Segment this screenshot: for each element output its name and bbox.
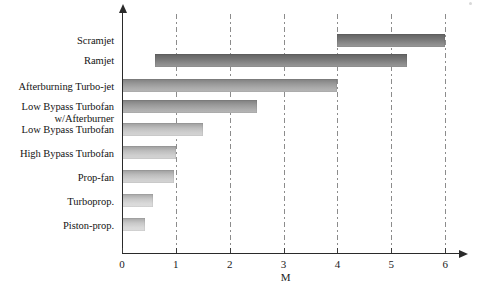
gridline-x-6 — [445, 14, 446, 254]
gridline-x-3 — [284, 14, 285, 254]
x-tick-label-1: 1 — [164, 258, 188, 270]
x-axis-line — [122, 253, 460, 254]
x-tick-label-6: 6 — [433, 258, 457, 270]
bar-low-bypass-turbofan-w-afterburner — [122, 100, 257, 113]
x-tick-mark-3 — [284, 248, 285, 253]
bar-ramjet — [155, 54, 407, 67]
bar-piston-prop — [122, 218, 145, 231]
category-label-prop-fan: Prop-fan — [0, 172, 114, 184]
top-right-speck — [469, 2, 472, 5]
gridline-x-5 — [391, 14, 392, 254]
x-tick-mark-2 — [230, 248, 231, 253]
category-label-low-bypass-turbofan-afterburner: Low Bypass Turbofan w/Afterburner — [0, 101, 114, 124]
category-label-line1: Low Bypass Turbofan — [22, 101, 114, 112]
bar-scramjet — [337, 34, 445, 47]
x-axis-arrow — [459, 250, 468, 258]
bar-chart: Scramjet Ramjet Afterburning Turbo-jet L… — [0, 0, 480, 290]
x-tick-label-2: 2 — [218, 258, 242, 270]
bar-low-bypass-turbofan — [122, 123, 203, 136]
gridline-x-2 — [230, 14, 231, 254]
x-tick-label-5: 5 — [379, 258, 403, 270]
x-axis-title: M — [274, 271, 298, 283]
x-tick-label-3: 3 — [272, 258, 296, 270]
category-label-low-bypass-turbofan: Low Bypass Turbofan — [0, 124, 114, 136]
category-label-piston-prop: Piston-prop. — [0, 220, 114, 232]
bar-high-bypass-turbofan — [122, 146, 176, 159]
x-tick-mark-6 — [445, 248, 446, 253]
category-label-ramjet: Ramjet — [0, 55, 114, 67]
category-label-high-bypass-turbofan: High Bypass Turbofan — [0, 148, 114, 160]
bar-prop-fan — [122, 170, 174, 183]
plot-area — [122, 14, 464, 254]
category-label-line2: w/Afterburner — [0, 113, 114, 125]
category-label-scramjet: Scramjet — [0, 35, 114, 47]
x-tick-label-0: 0 — [110, 258, 134, 270]
x-tick-label-4: 4 — [325, 258, 349, 270]
x-tick-mark-0 — [122, 248, 123, 253]
y-axis-line — [122, 10, 123, 254]
x-tick-mark-5 — [391, 248, 392, 253]
bar-afterburning-turbo-jet — [122, 79, 337, 92]
y-axis-arrow — [119, 4, 127, 13]
bar-turboprop — [122, 194, 153, 207]
category-label-column: Scramjet Ramjet Afterburning Turbo-jet L… — [0, 0, 118, 290]
category-label-turboprop: Turboprop. — [0, 196, 114, 208]
x-tick-mark-4 — [337, 248, 338, 253]
category-label-afterburning-turbojet: Afterburning Turbo-jet — [0, 81, 114, 93]
gridline-x-4 — [337, 14, 338, 254]
x-tick-mark-1 — [176, 248, 177, 253]
